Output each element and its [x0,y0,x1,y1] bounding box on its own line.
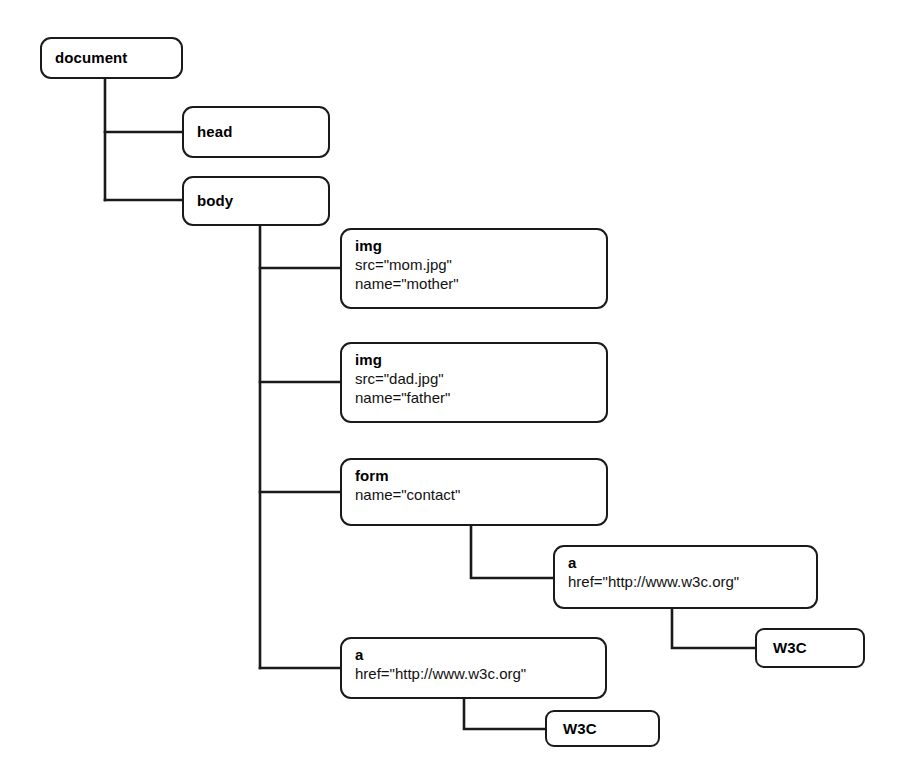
node-head-tag: head [197,123,232,141]
node-anchor-in-body[interactable]: a href="http://www.w3c.org" [340,637,607,699]
node-img-father-attr-src: src="dad.jpg" [355,369,606,388]
node-anchor-in-body-attr-href: href="http://www.w3c.org" [355,664,605,683]
node-text-w3c-in-form-label: W3C [773,639,807,657]
node-anchor-in-form-tag: a [568,554,816,572]
node-img-mother-tag: img [355,237,606,255]
node-img-mother-attr-name: name="mother" [355,274,606,293]
node-anchor-in-form-attr-href: href="http://www.w3c.org" [568,572,816,591]
node-head[interactable]: head [182,106,330,158]
edge-form-to-anchor [471,525,553,578]
node-body-tag: body [197,192,233,210]
node-img-father[interactable]: img src="dad.jpg" name="father" [340,342,608,423]
node-form-contact-tag: form [355,467,606,485]
edge-anchor-to-text-w3c-upper [672,608,755,648]
node-img-mother-attr-src: src="mom.jpg" [355,255,606,274]
node-anchor-in-form[interactable]: a href="http://www.w3c.org" [553,545,818,609]
node-form-contact-attr-name: name="contact" [355,485,606,504]
edge-anchor-to-text-w3c-lower [464,698,545,729]
node-text-w3c-in-form[interactable]: W3C [755,628,865,668]
node-img-father-attr-name: name="father" [355,388,606,407]
node-img-father-tag: img [355,351,606,369]
node-body[interactable]: body [182,176,330,226]
node-document[interactable]: document [40,37,183,79]
node-text-w3c-in-body-label: W3C [563,720,597,738]
node-anchor-in-body-tag: a [355,646,605,664]
node-text-w3c-in-body[interactable]: W3C [545,710,660,747]
node-img-mother[interactable]: img src="mom.jpg" name="mother" [340,228,608,309]
dom-tree-diagram: document head body img src="mom.jpg" nam… [0,0,903,784]
node-form-contact[interactable]: form name="contact" [340,458,608,526]
node-document-tag: document [55,49,127,67]
